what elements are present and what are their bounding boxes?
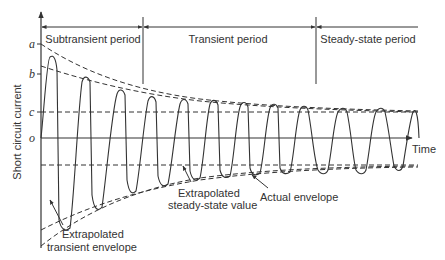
annotation-actual-envelope: Actual envelope: [252, 175, 338, 203]
envelopes: [41, 44, 418, 246]
short-circuit-diagram: a b c o Short circuit current Time Subtr…: [0, 0, 445, 260]
period-label-subtransient: Subtransient period: [45, 33, 140, 45]
level-label-a: a: [29, 37, 35, 51]
annotation-transient-envelope-line1: Extrapolated: [62, 228, 124, 240]
transient-envelope-upper: [41, 66, 418, 112]
annotation-steady-state-line2: steady-state value: [168, 199, 257, 211]
level-label-o: o: [29, 131, 35, 145]
annotation-steady-state-line1: Extrapolated: [178, 187, 240, 199]
annotation-actual-envelope-label: Actual envelope: [260, 191, 338, 203]
annotation-transient-envelope: Extrapolated transient envelope: [47, 200, 137, 253]
period-label-transient: Transient period: [188, 33, 267, 45]
annotation-transient-envelope-line2: transient envelope: [47, 241, 137, 253]
x-axis-label: Time: [412, 143, 436, 155]
period-label-steady-state: Steady-state period: [320, 33, 415, 45]
y-axis-label: Short circuit current: [11, 84, 23, 179]
actual-envelope-upper: [41, 44, 418, 111]
level-label-c: c: [29, 105, 35, 119]
level-label-b: b: [29, 67, 35, 81]
